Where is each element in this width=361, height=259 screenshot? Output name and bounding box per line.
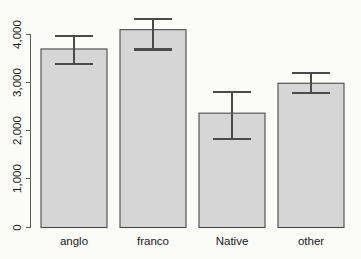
bar-chart-figure: 4,000 3,000 2,000 1,000 0 [0, 0, 361, 259]
y-tick-label-0: 0 [11, 224, 23, 230]
y-axis-ticks [26, 35, 31, 228]
bars-group [41, 30, 344, 228]
y-tick-label-2000: 2,000 [11, 116, 23, 145]
bar-franco[interactable] [120, 30, 186, 228]
bar-other[interactable] [278, 83, 344, 227]
y-tick-label-4000: 4,000 [11, 20, 23, 49]
x-tick-label-anglo: anglo [60, 235, 88, 247]
plot-area: 4,000 3,000 2,000 1,000 0 [0, 0, 361, 259]
chart-canvas: 4,000 3,000 2,000 1,000 0 [0, 0, 361, 259]
bar-anglo[interactable] [41, 49, 107, 228]
x-tick-label-other: other [298, 235, 324, 247]
x-axis-tick-labels: anglo franco Native other [60, 235, 324, 247]
x-tick-label-franco: franco [137, 235, 169, 247]
y-axis-tick-labels: 4,000 3,000 2,000 1,000 0 [11, 20, 23, 231]
y-tick-label-1000: 1,000 [11, 164, 23, 193]
x-tick-label-native: Native [216, 235, 249, 247]
y-tick-label-3000: 3,000 [11, 68, 23, 97]
